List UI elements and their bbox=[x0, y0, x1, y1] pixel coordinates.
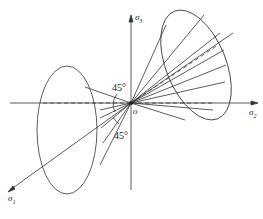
angle-label-upper: 45° bbox=[112, 82, 126, 93]
left-cone-base bbox=[37, 66, 97, 194]
sigma1-label: σ1 bbox=[8, 193, 15, 205]
sigma3-label: σ3 bbox=[135, 12, 142, 24]
sigma2-label: σ2 bbox=[249, 107, 256, 119]
stress-space-diagram bbox=[0, 0, 263, 219]
origin-label: o bbox=[133, 106, 138, 116]
sigma1-axis bbox=[10, 103, 131, 190]
angle-label-lower: 45° bbox=[114, 130, 128, 141]
sigma3-arrowhead bbox=[129, 15, 133, 22]
sigma2-arrowhead bbox=[251, 101, 258, 105]
right-cone-base bbox=[146, 0, 245, 130]
sigma1-arrowhead bbox=[8, 186, 15, 192]
